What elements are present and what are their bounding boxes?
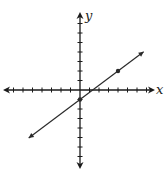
y-axis-label: y xyxy=(84,8,93,23)
plotted-line xyxy=(29,52,144,138)
x-axis-label: x xyxy=(156,82,164,97)
point-marker xyxy=(78,97,82,101)
cutoff-label-fragment: y xyxy=(83,184,92,189)
coordinate-graph: x y y xyxy=(0,0,165,189)
x-axis xyxy=(3,87,155,94)
point-marker xyxy=(116,69,120,73)
